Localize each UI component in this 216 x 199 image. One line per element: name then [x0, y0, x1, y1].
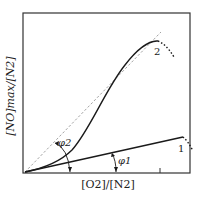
curve-label-2: 2: [154, 46, 160, 57]
curve-2-dotted-tail: [158, 41, 174, 57]
curve-label-1: 1: [178, 143, 184, 154]
curve-1: [25, 137, 183, 172]
angle-label-phi1: φ1: [118, 155, 131, 166]
y-axis-label: [NO]max/[N2]: [4, 56, 17, 135]
diagram-canvas: φ2 φ1 2 1: [0, 0, 216, 199]
tangent-line-2: [25, 32, 161, 172]
curve-1-dotted-tail: [183, 137, 193, 151]
arrow-icon: [68, 167, 72, 172]
arrow-icon: [111, 153, 115, 157]
angle-label-phi2: φ2: [58, 137, 71, 148]
x-axis-label: [O2]/[N2]: [0, 178, 216, 191]
curve-2: [25, 41, 158, 172]
arrow-icon: [114, 167, 118, 172]
